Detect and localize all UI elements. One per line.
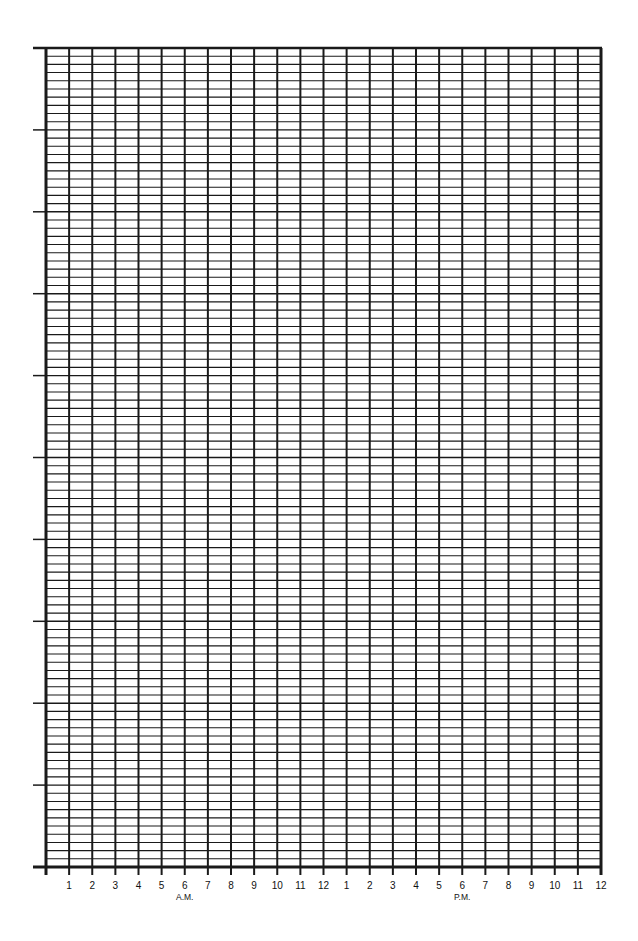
- hour-label: 2: [367, 880, 373, 891]
- hour-label: 10: [549, 880, 561, 891]
- hour-label: 4: [413, 880, 419, 891]
- pm-label: P.M.: [454, 892, 470, 902]
- am-label: A.M.: [176, 892, 193, 902]
- hour-label: 7: [483, 880, 489, 891]
- hour-label: 3: [390, 880, 396, 891]
- hour-label: 11: [295, 880, 306, 891]
- x-axis-period-labels: A.M.P.M.: [176, 892, 470, 902]
- hour-label: 8: [228, 880, 234, 891]
- hour-label: 10: [272, 880, 284, 891]
- hour-label: 12: [595, 880, 607, 891]
- hour-label: 3: [113, 880, 119, 891]
- hour-label: 12: [318, 880, 330, 891]
- hour-label: 7: [205, 880, 211, 891]
- vertical-gridlines: [69, 48, 578, 875]
- hour-label: 1: [66, 880, 72, 891]
- hour-label: 4: [136, 880, 142, 891]
- hour-label: 1: [344, 880, 350, 891]
- hour-label: 2: [89, 880, 95, 891]
- hour-label: 9: [529, 880, 535, 891]
- x-axis-hour-labels: 123456789101112123456789101112: [66, 880, 607, 891]
- hour-label: 6: [182, 880, 188, 891]
- hour-label: 6: [459, 880, 465, 891]
- hour-label: 9: [251, 880, 257, 891]
- hour-label: 5: [436, 880, 442, 891]
- hour-label: 11: [573, 880, 584, 891]
- hour-label: 5: [159, 880, 165, 891]
- graph-paper-chart: 123456789101112123456789101112 A.M.P.M.: [0, 0, 638, 941]
- major-y-ticks: [33, 130, 46, 785]
- axes: [33, 48, 602, 875]
- hour-label: 8: [506, 880, 512, 891]
